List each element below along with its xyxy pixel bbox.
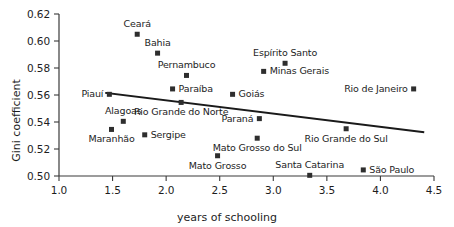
y-axis-title: Gini coefficient	[10, 60, 23, 180]
data-point-label: Alagoas	[105, 107, 142, 117]
x-tick-label: 1.5	[104, 184, 120, 196]
data-point-label: Goiás	[239, 90, 265, 100]
data-marker	[142, 132, 147, 137]
y-tick-label: 0.62	[0, 8, 50, 20]
x-tick-label: 3.5	[319, 184, 335, 196]
x-tick-label: 4.5	[426, 184, 442, 196]
data-point-label: Sergipe	[151, 130, 186, 140]
data-point-label: São Paulo	[369, 165, 414, 175]
data-point-label: Santa Catarina	[275, 161, 344, 171]
data-point-label: Maranhão	[88, 135, 134, 145]
data-point-label: Mato Grosso	[189, 161, 247, 171]
data-marker	[255, 136, 260, 141]
data-point-label: Mato Grosso do Sul	[213, 143, 302, 153]
data-marker	[109, 127, 114, 132]
data-marker	[307, 173, 312, 178]
data-marker	[121, 119, 126, 124]
data-marker	[215, 153, 220, 158]
x-tick-label: 1.0	[51, 184, 67, 196]
data-point-label: Pernambuco	[158, 61, 216, 71]
data-marker	[107, 92, 112, 97]
data-marker	[361, 167, 366, 172]
data-marker	[411, 86, 416, 91]
data-point-label: Bahia	[145, 38, 171, 48]
data-marker	[155, 51, 160, 56]
data-point-label: Rio Grande do Sul	[305, 134, 388, 144]
data-point-label: Espírito Santo	[253, 49, 317, 59]
x-axis-title: years of schooling	[0, 211, 454, 224]
data-marker	[257, 116, 262, 121]
y-tick-label: 0.58	[0, 62, 50, 74]
x-tick-label: 3.0	[265, 184, 281, 196]
data-marker	[344, 126, 349, 131]
x-tick-label: 2.0	[158, 184, 174, 196]
data-marker	[261, 69, 266, 74]
data-marker	[179, 100, 184, 105]
data-marker	[230, 92, 235, 97]
data-point-label: Rio de Janeiro	[344, 84, 408, 94]
y-tick-label: 0.60	[0, 35, 50, 47]
data-marker	[135, 32, 140, 37]
y-tick-label: 0.54	[0, 116, 50, 128]
data-point-label: Rio Grande do Norte	[134, 108, 228, 118]
data-marker	[184, 73, 189, 78]
data-point-label: Ceará	[124, 20, 151, 30]
x-tick-label: 4.0	[372, 184, 388, 196]
scatter-chart: 0.500.520.540.560.580.600.62 1.01.52.02.…	[0, 0, 454, 227]
y-tick-label: 0.50	[0, 170, 50, 182]
y-tick-label: 0.56	[0, 89, 50, 101]
y-tick-label: 0.52	[0, 143, 50, 155]
data-point-label: Paraná	[222, 114, 254, 124]
data-point-label: Piauí	[81, 90, 103, 100]
data-marker	[170, 86, 175, 91]
x-tick-label: 2.5	[212, 184, 228, 196]
data-point-label: Minas Gerais	[270, 67, 329, 77]
data-point-label: Paraíba	[179, 84, 213, 94]
